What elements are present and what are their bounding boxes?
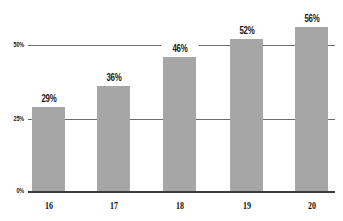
value-label-19: 52% [228, 24, 266, 36]
x-tick-label-20: 20 [296, 200, 328, 211]
y-tick-label-25: 25% [7, 115, 24, 122]
x-tick-label-17: 17 [98, 200, 130, 211]
bar-16 [32, 107, 65, 191]
y-tick-label-50: 50% [7, 41, 24, 48]
value-label-20: 56% [293, 12, 331, 24]
bar-20 [295, 27, 328, 191]
bar-chart: 50% 25% 0% 29%1636%1746%1852%1956%20 [0, 0, 343, 221]
bar-17 [97, 86, 130, 191]
x-tick-label-18: 18 [164, 200, 196, 211]
x-tick-label-16: 16 [33, 200, 65, 211]
bar-19 [230, 39, 263, 191]
x-axis-baseline [28, 191, 335, 193]
y-tick-label-0: 0% [7, 187, 24, 194]
value-label-18: 46% [161, 42, 199, 54]
bar-18 [163, 57, 196, 191]
x-tick-label-19: 19 [231, 200, 263, 211]
value-label-17: 36% [95, 71, 133, 83]
value-label-16: 29% [30, 92, 68, 104]
